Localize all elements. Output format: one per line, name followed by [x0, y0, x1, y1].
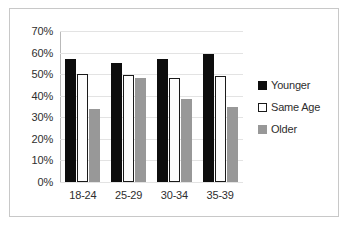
bar-older-30-34	[181, 99, 192, 182]
legend-label: Same Age	[271, 101, 320, 113]
x-axis-tick-label: 30-34	[161, 189, 188, 201]
bar-younger-25-29	[111, 63, 122, 182]
bar-group	[111, 30, 146, 182]
x-axis: 18-2425-2930-3435-39	[60, 189, 243, 207]
y-axis-tick-label: 50%	[32, 68, 53, 80]
y-axis-tick-label: 60%	[32, 47, 53, 59]
bar-older-18-24	[89, 109, 100, 182]
y-axis-tick-label: 10%	[32, 154, 53, 166]
chart-container: 0%10%20%30%40%50%60%70% 18-2425-2930-343…	[9, 8, 339, 217]
legend-label: Younger	[271, 79, 310, 91]
legend-label: Older	[271, 123, 297, 135]
bar-same-age-18-24	[77, 74, 88, 182]
x-axis-tick-label: 35-39	[207, 189, 234, 201]
legend-item-older[interactable]: Older	[258, 118, 338, 140]
chart-legend: YoungerSame AgeOlder	[258, 74, 338, 140]
gridline	[60, 182, 243, 183]
bar-younger-30-34	[157, 59, 168, 182]
plot-area	[60, 31, 243, 183]
legend-item-younger[interactable]: Younger	[258, 74, 338, 96]
y-axis-tick-label: 40%	[32, 90, 53, 102]
x-axis-tick-label: 18-24	[69, 189, 96, 201]
y-axis-tick-label: 70%	[32, 25, 53, 37]
legend-item-same-age[interactable]: Same Age	[258, 96, 338, 118]
bar-younger-35-39	[203, 54, 214, 182]
y-axis: 0%10%20%30%40%50%60%70%	[10, 31, 56, 183]
legend-swatch-icon	[258, 103, 267, 112]
legend-swatch-icon	[258, 81, 267, 90]
bar-group	[65, 30, 100, 182]
x-axis-tick-label: 25-29	[115, 189, 142, 201]
bar-group	[203, 30, 238, 182]
bar-younger-18-24	[65, 59, 76, 182]
bar-same-age-30-34	[169, 78, 180, 182]
bar-older-35-39	[227, 107, 238, 183]
bar-older-25-29	[135, 78, 146, 182]
bar-same-age-25-29	[123, 75, 134, 182]
legend-swatch-icon	[258, 125, 267, 134]
bar-group	[157, 30, 192, 182]
y-axis-tick-label: 0%	[38, 176, 54, 188]
y-axis-tick-label: 30%	[32, 111, 53, 123]
bar-same-age-35-39	[215, 76, 226, 182]
y-axis-tick-label: 20%	[32, 133, 53, 145]
